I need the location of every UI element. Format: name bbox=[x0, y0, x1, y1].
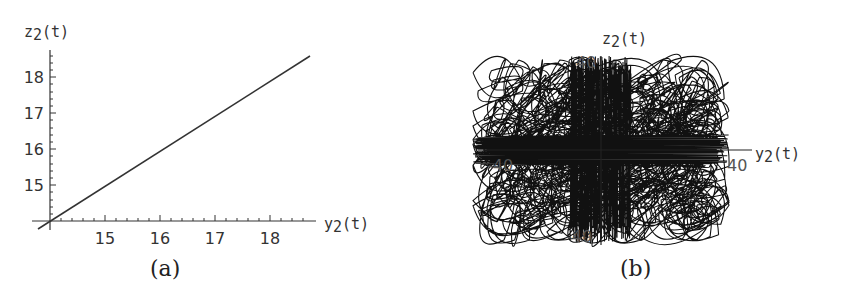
x-ticks bbox=[61, 215, 303, 221]
x-tick-label: 18 bbox=[260, 229, 280, 248]
data-line bbox=[38, 56, 310, 229]
y-ticks bbox=[50, 56, 56, 214]
y-axis-label: z2(t) bbox=[24, 23, 69, 44]
x-tick-label: -40 bbox=[487, 156, 513, 175]
caption-b: (b) bbox=[620, 256, 651, 281]
x-tick-label: 17 bbox=[205, 229, 225, 248]
y-tick-label: 17 bbox=[24, 104, 44, 123]
line-plot-a: 15 16 17 18 15 16 17 18 z2(t) y2(t) bbox=[0, 0, 430, 308]
caption-a: (a) bbox=[150, 256, 180, 281]
y-tick-label: 18 bbox=[24, 68, 44, 87]
x-axis-label: y2(t) bbox=[324, 215, 369, 236]
y-tick-label: 40 bbox=[576, 53, 596, 72]
chart-panel-a: 15 16 17 18 15 16 17 18 z2(t) y2(t) bbox=[0, 0, 430, 308]
y-tick-label: 15 bbox=[24, 176, 44, 195]
y-tick-label: -40 bbox=[566, 227, 592, 246]
x-tick-label: 15 bbox=[95, 229, 115, 248]
x-tick-label: 40 bbox=[727, 156, 747, 175]
y-tick-label: 16 bbox=[24, 140, 44, 159]
x-axis-label: y2(t) bbox=[755, 145, 800, 166]
y-axis-label: z2(t) bbox=[602, 30, 647, 51]
x-tick-label: 16 bbox=[150, 229, 170, 248]
